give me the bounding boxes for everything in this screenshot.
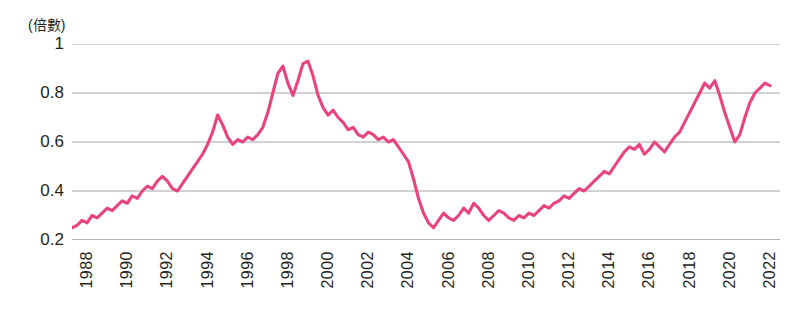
x-axis-tick-label: 2020 (721, 251, 739, 289)
x-axis-tick-label: 2000 (319, 251, 337, 289)
x-axis-tick-label: 1994 (199, 251, 217, 289)
x-axis-tick-label: 2004 (399, 251, 417, 289)
x-axis-tick-label: 2014 (600, 251, 618, 289)
x-axis-tick-label: 1992 (158, 251, 176, 289)
x-axis-tick-labels: 1988199019921994199619982000200220042006… (0, 0, 810, 319)
x-axis-tick-label: 1988 (78, 251, 96, 289)
x-axis-tick-label: 2008 (480, 251, 498, 289)
x-axis-tick-label: 2018 (681, 251, 699, 289)
x-axis-tick-label: 1990 (118, 251, 136, 289)
chart-container: (倍數) 0.20.40.60.81 198819901992199419961… (0, 0, 810, 319)
x-axis-tick-label: 2012 (560, 251, 578, 289)
x-axis-tick-label: 2022 (761, 251, 779, 289)
x-axis-tick-label: 1996 (239, 251, 257, 289)
x-axis-tick-label: 2006 (440, 251, 458, 289)
x-axis-tick-label: 2016 (640, 251, 658, 289)
x-axis-tick-label: 2002 (359, 251, 377, 289)
x-axis-tick-label: 1998 (279, 251, 297, 289)
x-axis-tick-label: 2010 (520, 251, 538, 289)
